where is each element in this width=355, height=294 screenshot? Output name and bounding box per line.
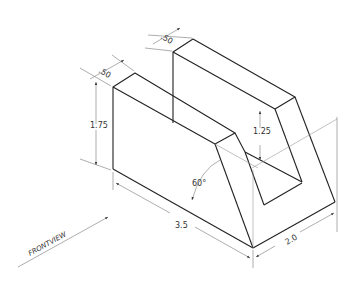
dim-front-height: 1.75	[90, 121, 108, 130]
dim-back-wall: .50	[159, 32, 175, 46]
object-lines	[113, 39, 335, 248]
dim-length: 3.5	[175, 221, 188, 230]
dimension-labels: .50 .50 1.75 1.25 60° 3.5 2.0 FRONTVIEW	[27, 32, 299, 258]
hidden-construction-lines	[215, 119, 337, 248]
front-view-label: FRONTVIEW	[27, 230, 69, 258]
dim-depth: 2.0	[284, 233, 300, 247]
dim-notch-depth: 1.25	[253, 127, 271, 136]
dim-front-slot: .50	[97, 66, 113, 80]
isometric-drawing: .50 .50 1.75 1.25 60° 3.5 2.0 FRONTVIEW	[0, 0, 355, 294]
dim-angle: 60°	[192, 179, 206, 188]
